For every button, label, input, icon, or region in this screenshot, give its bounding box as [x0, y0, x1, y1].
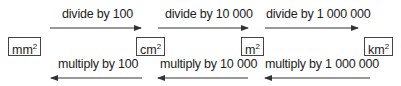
- multiply-label-1: multiply by 100: [58, 57, 138, 71]
- divide-label-2: divide by 10 000: [165, 7, 253, 21]
- unit-box-m2: m2: [241, 37, 264, 56]
- unit-box-mm2: mm2: [8, 37, 41, 56]
- unit-box-cm2: cm2: [136, 37, 165, 56]
- divide-label-3: divide by 1 000 000: [266, 7, 371, 21]
- unit-box-km2: km2: [364, 37, 393, 56]
- divide-label-1: divide by 100: [62, 7, 133, 21]
- multiply-label-2: multiply by 10 000: [160, 57, 257, 71]
- multiply-label-3: multiply by 1 000 000: [265, 57, 379, 71]
